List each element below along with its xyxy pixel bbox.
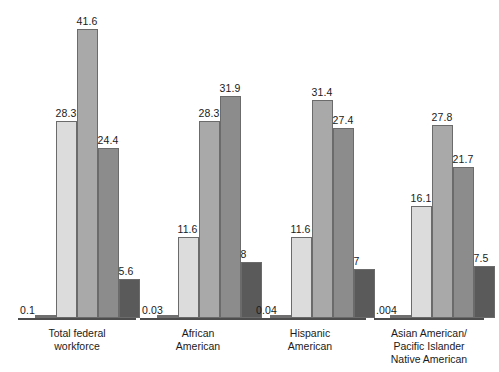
bar [474,266,495,318]
group-axis-line [374,318,484,320]
bar-value-label: 27.8 [432,111,453,123]
category-label-line: Pacific Islander [359,340,499,353]
bar [411,206,432,318]
category-label-line: Asian American/ [359,327,499,340]
category-label-line: Native American [359,353,499,366]
bar-value-label: 16.1 [411,192,432,204]
bar [432,125,453,318]
bar-value-label: 21.7 [453,153,474,165]
category-label: Asian American/Pacific IslanderNative Am… [359,327,499,366]
bar-value-label: .004 [376,304,397,316]
bar [453,167,474,318]
bar-value-label: 7.5 [474,252,489,264]
